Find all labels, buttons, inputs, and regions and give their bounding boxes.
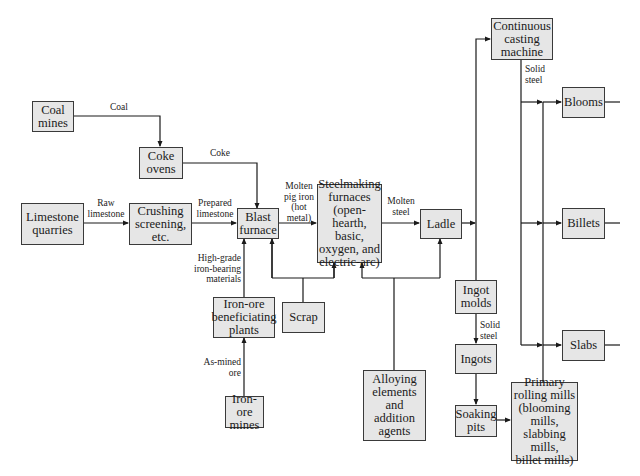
node-ladle: Ladle [420, 209, 462, 239]
label-raw-limestone: Raw limestone [84, 198, 128, 219]
node-soaking-pits: Soaking pits [455, 405, 497, 437]
node-limestone-quarries: Limestone quarries [21, 203, 84, 245]
label-molten-steel: Molten steel [382, 196, 420, 217]
node-iron-ore-mines: Iron-ore mines [225, 396, 264, 428]
edge-coal [73, 116, 160, 146]
node-beneficiating: Iron-ore beneficiating plants [213, 297, 275, 338]
label-coke: Coke [205, 148, 235, 159]
label-solid-steel-cc: Solid steel [525, 64, 555, 85]
node-billets: Billets [562, 208, 605, 239]
node-ingot-molds: Ingot molds [455, 280, 497, 314]
node-continuous-casting: Continuous casting machine [491, 18, 553, 60]
node-alloying: Alloying elements and addition agents [363, 370, 426, 441]
node-steelmaking: Steelmaking furnaces (open-hearth, basic… [317, 184, 382, 263]
node-coke-ovens: Coke ovens [139, 147, 183, 179]
edge-alloying [362, 278, 440, 370]
label-solid-steel-ingot: Solid steel [480, 320, 510, 341]
label-as-mined: As-mined ore [195, 357, 241, 378]
node-blooms: Blooms [562, 87, 605, 118]
node-coal-mines: Coal mines [32, 101, 74, 132]
edge-trunk [476, 39, 490, 313]
label-prepared-limestone: Prepared limestone [192, 198, 238, 219]
label-coal: Coal [104, 102, 134, 113]
node-slabs: Slabs [562, 330, 605, 361]
node-primary-rolling: Primary rolling mills (blooming mills, s… [511, 382, 578, 461]
label-molten-pig-iron: Molten pig iron (hot metal) [280, 181, 318, 223]
label-high-grade: High-grade iron-bearing materials [180, 253, 241, 285]
node-crushing: Crushing screening, etc. [129, 203, 192, 245]
node-blast-furnace: Blast furnace [237, 208, 279, 239]
node-scrap: Scrap [282, 302, 325, 333]
node-ingots: Ingots [455, 344, 497, 374]
